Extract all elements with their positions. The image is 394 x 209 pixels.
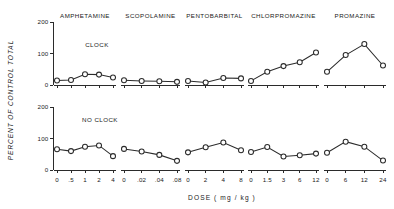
series-line-panel4-clock	[327, 44, 383, 72]
y-tick-label-100-row0: 100	[38, 50, 49, 57]
data-point-panel1-no_clock-2	[157, 152, 162, 157]
x-tick-label-1-panel4: 6	[344, 176, 348, 183]
data-point-panel0-no_clock-0	[55, 147, 60, 152]
panel-title-4: PROMAZINE	[335, 12, 376, 19]
x-tick-label-3-panel2: 8	[239, 176, 243, 183]
panel-title-0: AMPHETAMINE	[60, 12, 110, 19]
y-tick-label-0-row1: 0	[45, 166, 49, 173]
x-tick-label-1-panel3: 1.5	[263, 176, 273, 183]
data-point-panel2-no_clock-2	[221, 140, 226, 145]
series-line-panel2-clock	[188, 78, 241, 82]
data-point-panel4-clock-0	[325, 69, 330, 74]
data-point-panel3-clock-4	[314, 50, 319, 55]
x-tick-label-4-panel0: 4	[111, 176, 115, 183]
data-point-panel3-no_clock-1	[265, 145, 270, 150]
series-line-panel2-no_clock	[188, 143, 241, 153]
x-axis-title: DOSE ( mg / kg )	[188, 194, 256, 202]
y-tick-label-0-row0: 0	[45, 81, 49, 88]
data-point-panel2-clock-0	[186, 78, 191, 83]
data-point-panel0-clock-2	[83, 72, 88, 77]
x-tick-label-3-panel1: .08	[172, 176, 182, 183]
data-point-panel2-clock-1	[203, 80, 208, 85]
condition-label-clock: CLOCK	[85, 41, 109, 48]
x-tick-label-0-panel3: 0	[249, 176, 253, 183]
panel-title-1: SCOPOLAMINE	[125, 12, 175, 19]
x-tick-label-1-panel1: .02	[137, 176, 147, 183]
data-point-panel4-no_clock-3	[381, 158, 386, 163]
y-axis-title: PERCENT OF CONTROL TOTAL	[7, 40, 14, 160]
data-point-panel0-no_clock-4	[111, 154, 116, 159]
panel-title-3: CHLORPROMAZINE	[251, 12, 316, 19]
x-tick-label-3-panel3: 6	[298, 176, 302, 183]
data-point-panel1-clock-2	[157, 79, 162, 84]
data-point-panel2-no_clock-1	[203, 145, 208, 150]
data-point-panel0-clock-3	[97, 72, 102, 77]
condition-label-no-clock: NO CLOCK	[82, 116, 118, 123]
data-point-panel4-clock-1	[343, 53, 348, 58]
y-tick-label-100-row1: 100	[38, 135, 49, 142]
x-tick-label-0-panel0: 0	[55, 176, 59, 183]
dose-response-figure: 01002000100200PERCENT OF CONTROL TOTALDO…	[0, 0, 394, 209]
data-point-panel3-no_clock-2	[281, 154, 286, 159]
data-point-panel2-no_clock-0	[186, 150, 191, 155]
data-point-panel4-clock-3	[381, 63, 386, 68]
x-tick-label-0-panel4: 0	[325, 176, 329, 183]
data-point-panel1-clock-1	[139, 78, 144, 83]
data-point-panel0-clock-0	[55, 78, 60, 83]
data-point-panel2-clock-2	[221, 76, 226, 81]
data-point-panel3-no_clock-0	[249, 150, 254, 155]
x-tick-label-3-panel4: 24	[379, 176, 387, 183]
data-point-panel3-clock-0	[249, 78, 254, 83]
data-point-panel1-no_clock-1	[139, 149, 144, 154]
data-point-panel3-clock-3	[297, 60, 302, 65]
x-tick-label-0-panel1: 0	[122, 176, 126, 183]
data-point-panel4-no_clock-1	[343, 139, 348, 144]
data-point-panel0-no_clock-2	[83, 144, 88, 149]
x-tick-label-2-panel3: 3	[282, 176, 286, 183]
data-point-panel1-no_clock-3	[175, 158, 180, 163]
data-point-panel3-clock-2	[281, 64, 286, 69]
x-tick-label-0-panel2: 0	[186, 176, 190, 183]
data-point-panel1-clock-0	[122, 78, 127, 83]
series-line-panel1-no_clock	[124, 149, 177, 161]
data-point-panel4-no_clock-2	[362, 144, 367, 149]
data-point-panel3-clock-1	[265, 69, 270, 74]
x-tick-label-3-panel0: 2	[97, 176, 101, 183]
data-point-panel2-clock-3	[239, 76, 244, 81]
x-tick-label-2-panel0: 1	[83, 176, 87, 183]
y-tick-label-200-row1: 200	[38, 103, 49, 110]
data-point-panel0-no_clock-1	[69, 149, 74, 154]
data-point-panel0-no_clock-3	[97, 143, 102, 148]
figure-container: 01002000100200PERCENT OF CONTROL TOTALDO…	[0, 0, 394, 209]
data-point-panel4-clock-2	[362, 42, 367, 47]
x-tick-label-2-panel1: .04	[155, 176, 165, 183]
data-point-panel1-clock-3	[175, 79, 180, 84]
y-tick-label-200-row0: 200	[38, 18, 49, 25]
series-line-panel4-no_clock	[327, 142, 383, 161]
data-point-panel0-clock-4	[111, 75, 116, 80]
x-tick-label-1-panel0: .5	[68, 176, 74, 183]
x-tick-label-1-panel2: 2	[204, 176, 208, 183]
data-point-panel2-no_clock-3	[239, 148, 244, 153]
series-line-panel1-clock	[124, 80, 177, 82]
data-point-panel3-no_clock-3	[297, 153, 302, 158]
data-point-panel1-no_clock-0	[122, 146, 127, 151]
data-point-panel4-no_clock-0	[325, 150, 330, 155]
x-tick-label-4-panel3: 12	[312, 176, 320, 183]
x-tick-label-2-panel4: 12	[361, 176, 369, 183]
data-point-panel3-no_clock-4	[314, 151, 319, 156]
data-point-panel0-clock-1	[69, 77, 74, 82]
x-tick-label-2-panel2: 4	[222, 176, 226, 183]
panel-title-2: PENTOBARBITAL	[186, 12, 243, 19]
